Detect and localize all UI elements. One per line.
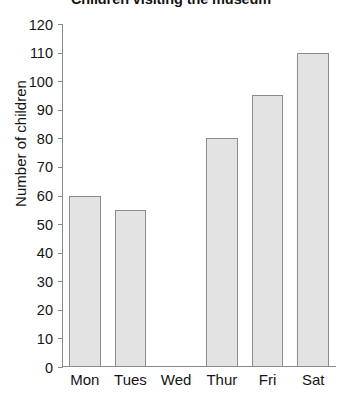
y-axis-tick-label: 10 <box>37 331 53 347</box>
y-axis-tick-label: 40 <box>37 245 53 261</box>
y-axis-tick: 0 <box>58 367 63 368</box>
y-axis-tick-label: 70 <box>37 159 53 175</box>
bar-fri <box>252 95 284 367</box>
bar-tues <box>115 210 147 367</box>
bar-slot <box>297 24 329 367</box>
y-axis-tick-label: 90 <box>37 102 53 118</box>
y-axis-tick-label: 80 <box>37 131 53 147</box>
y-axis-tick-label: 60 <box>37 188 53 204</box>
bar-slot <box>69 24 101 367</box>
y-axis-tick-label: 120 <box>29 17 53 33</box>
bar-sat <box>297 53 329 367</box>
bar-slot <box>206 24 238 367</box>
x-axis-label-tues: Tues <box>108 371 154 388</box>
y-axis-tick-label: 110 <box>30 45 53 61</box>
x-axis-label-fri: Fri <box>245 371 291 388</box>
x-axis-label-wed: Wed <box>153 371 199 388</box>
y-axis-tick-label: 30 <box>37 274 53 290</box>
chart-title: Children visiting the museum <box>0 0 342 7</box>
y-axis-tick-label: 50 <box>37 217 53 233</box>
x-axis-label-thur: Thur <box>199 371 245 388</box>
bar-slot <box>115 24 147 367</box>
bar-mon <box>69 196 101 368</box>
bar-slot <box>252 24 284 367</box>
y-axis-tick-label: 100 <box>29 74 53 90</box>
plot-area: 0102030405060708090100110120 MonTuesWedT… <box>62 24 336 367</box>
y-axis-tick-label: 0 <box>45 360 53 376</box>
x-axis-label-mon: Mon <box>62 371 108 388</box>
x-axis-label-sat: Sat <box>290 371 336 388</box>
bar-series <box>62 24 336 367</box>
y-axis-tick-label: 20 <box>37 302 53 318</box>
y-axis-title: Number of children <box>12 54 29 234</box>
bar-chart: Children visiting the museum Number of c… <box>0 0 342 408</box>
bar-thur <box>206 138 238 367</box>
bar-slot <box>160 24 192 367</box>
